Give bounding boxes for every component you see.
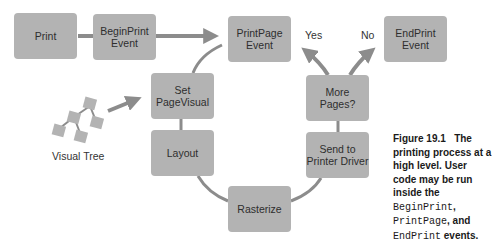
code-endprint: EndPrint bbox=[393, 231, 441, 242]
node-printpage-event: PrintPage Event bbox=[228, 16, 291, 62]
figure-caption: Figure 19.1 The printing process at a hi… bbox=[393, 132, 493, 243]
node-layout: Layout bbox=[151, 130, 214, 176]
arc-rasterize-driver bbox=[291, 178, 321, 201]
node-print: Print bbox=[14, 13, 77, 59]
arc-setpagevisual-printpage bbox=[193, 45, 222, 73]
node-beginprint-event: BeginPrint Event bbox=[93, 14, 156, 60]
visual-tree-icon bbox=[52, 97, 104, 144]
arrow-no bbox=[350, 52, 370, 75]
caption-separator: , bbox=[453, 201, 456, 212]
arrow-visualtree-setpagevisual bbox=[108, 100, 135, 111]
node-send-to-printer-driver: Send to Printer Driver bbox=[306, 132, 369, 178]
edge-label-no: No bbox=[361, 29, 374, 41]
visual-tree-label: Visual Tree bbox=[52, 150, 104, 162]
node-endprint-event: EndPrint Event bbox=[384, 16, 447, 62]
node-more-pages: More Pages? bbox=[306, 75, 369, 121]
code-printpage: PrintPage bbox=[393, 216, 447, 227]
node-rasterize: Rasterize bbox=[228, 186, 291, 232]
edge-label-yes: Yes bbox=[305, 29, 322, 41]
node-set-pagevisual: Set PageVisual bbox=[151, 73, 214, 119]
arc-layout-rasterize bbox=[198, 176, 228, 201]
caption-text-end: events. bbox=[444, 230, 478, 241]
arrow-yes bbox=[307, 52, 328, 75]
caption-separator: , and bbox=[447, 215, 470, 226]
code-beginprint: BeginPrint bbox=[393, 202, 453, 213]
figure-number: Figure 19.1 bbox=[393, 133, 446, 144]
